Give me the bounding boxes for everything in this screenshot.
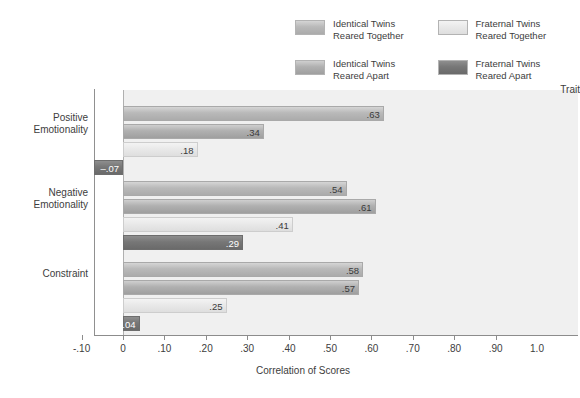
x-tick-label: .10 [144, 343, 184, 354]
x-tick-label: .70 [393, 343, 433, 354]
chart-legend: Identical Twins Reared Together Fraterna… [295, 18, 570, 81]
bar-value-label: –.07 [100, 161, 119, 176]
category-label-positive-emotionality: Positive Emotionality [0, 112, 88, 136]
x-tick-label: .90 [476, 343, 516, 354]
category-label-constraint: Constraint [0, 268, 88, 280]
bar-value-label: .25 [209, 299, 222, 314]
x-tick-mark [496, 335, 497, 340]
x-tick-mark [289, 335, 290, 340]
bar-itt-0: .63 [123, 106, 384, 121]
bar-ftt-2: .25 [123, 298, 227, 313]
category-label-negative-emotionality: Negative Emotionality [0, 187, 88, 211]
legend-label-fta: Fraternal Twins Reared Apart [476, 58, 541, 81]
bar-itt-1: .54 [123, 181, 347, 196]
bar-value-label: .61 [358, 200, 371, 215]
x-tick-label: -.10 [62, 343, 102, 354]
legend-item-fraternal-reared-together: Fraternal Twins Reared Together [438, 18, 571, 41]
x-tick-label: .30 [227, 343, 267, 354]
bar-value-label: .41 [276, 218, 289, 233]
y-axis-title: Trait [492, 84, 580, 95]
bar-fta-2: .04 [123, 316, 140, 331]
x-tick-label: .80 [434, 343, 474, 354]
bar-fta-1: .29 [123, 235, 243, 250]
legend-item-fraternal-reared-apart: Fraternal Twins Reared Apart [438, 58, 571, 81]
x-tick-mark [82, 335, 83, 340]
x-axis-label-wrapper: Correlation of Scores [0, 365, 580, 376]
legend-swatch-icon-itt [295, 20, 325, 35]
bar-value-label: .58 [346, 263, 359, 278]
bar-value-label: .54 [329, 182, 342, 197]
legend-item-identical-reared-apart: Identical Twins Reared Apart [295, 58, 428, 81]
x-tick-mark [454, 335, 455, 340]
x-tick-label: .40 [269, 343, 309, 354]
x-tick-label: 0 [103, 343, 143, 354]
x-tick-mark [164, 335, 165, 340]
bar-ftt-1: .41 [123, 217, 293, 232]
bar-itt-2: .58 [123, 262, 363, 277]
bar-value-label: .63 [367, 107, 380, 122]
legend-label-ftt: Fraternal Twins Reared Together [476, 18, 547, 41]
bar-ita-1: .61 [123, 199, 376, 214]
x-tick-mark [247, 335, 248, 340]
legend-swatch-icon-ita [295, 60, 325, 75]
bar-value-label: .34 [247, 125, 260, 140]
bar-value-label: .04 [122, 317, 135, 332]
bar-ftt-0: .18 [123, 142, 198, 157]
y-axis-line [94, 89, 95, 336]
bar-value-label: .57 [342, 281, 355, 296]
x-tick-label: 1.0 [517, 343, 557, 354]
legend-swatch-icon-ftt [438, 20, 468, 35]
x-tick-label: .60 [351, 343, 391, 354]
bar-value-label: .18 [180, 143, 193, 158]
x-tick-mark [371, 335, 372, 340]
bar-ita-2: .57 [123, 280, 359, 295]
x-tick-label: .20 [186, 343, 226, 354]
bar-fta-0: –.07 [94, 160, 123, 175]
x-tick-mark [330, 335, 331, 340]
legend-item-identical-reared-together: Identical Twins Reared Together [295, 18, 428, 41]
bar-ita-0: .34 [123, 124, 264, 139]
legend-label-itt: Identical Twins Reared Together [333, 18, 404, 41]
x-tick-label: .50 [310, 343, 350, 354]
x-axis-line [94, 335, 578, 336]
legend-swatch-icon-fta [438, 60, 468, 75]
x-axis-label: Correlation of Scores [256, 365, 350, 376]
legend-label-ita: Identical Twins Reared Apart [333, 58, 395, 81]
x-tick-mark [413, 335, 414, 340]
bar-value-label: .29 [226, 236, 239, 251]
correlation-bar-chart: Identical Twins Reared Together Fraterna… [0, 0, 580, 398]
x-tick-mark [206, 335, 207, 340]
x-tick-mark [123, 335, 124, 340]
